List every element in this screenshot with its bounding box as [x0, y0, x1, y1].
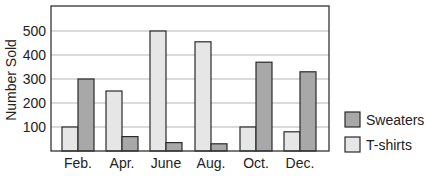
y-tick-label: 300 — [23, 71, 47, 87]
legend-swatch — [345, 112, 360, 127]
bar-sweaters — [122, 137, 138, 151]
bar-sweaters — [166, 143, 182, 151]
x-tick-label: Aug. — [197, 155, 226, 171]
bar-tshirts — [284, 132, 300, 151]
bar-tshirts — [62, 127, 78, 151]
y-tick-label: 200 — [23, 95, 47, 111]
legend-label: Sweaters — [366, 112, 424, 128]
legend-swatch — [345, 137, 360, 152]
bar-tshirts — [150, 31, 166, 151]
bars — [62, 31, 316, 151]
bar-sweaters — [300, 72, 316, 151]
x-tick-label: June — [151, 155, 182, 171]
y-axis-ticks: 100200300400500 — [23, 23, 47, 135]
x-tick-label: Feb. — [64, 155, 92, 171]
bar-tshirts — [240, 127, 256, 151]
bar-tshirts — [195, 42, 211, 151]
bar-sweaters — [256, 62, 272, 151]
x-tick-label: Dec. — [286, 155, 315, 171]
bar-chart: 100200300400500 Feb.Apr.JuneAug.Oct.Dec.… — [0, 0, 426, 176]
y-tick-label: 100 — [23, 119, 47, 135]
x-tick-label: Oct. — [243, 155, 269, 171]
legend: SweatersT-shirts — [345, 112, 424, 153]
bar-tshirts — [106, 91, 122, 151]
x-axis-ticks: Feb.Apr.JuneAug.Oct.Dec. — [64, 155, 314, 171]
bar-sweaters — [211, 144, 227, 151]
y-axis-label: Number Sold — [3, 39, 19, 121]
legend-label: T-shirts — [366, 137, 412, 153]
x-tick-label: Apr. — [110, 155, 135, 171]
y-tick-label: 400 — [23, 47, 47, 63]
bar-sweaters — [78, 79, 94, 151]
y-tick-label: 500 — [23, 23, 47, 39]
